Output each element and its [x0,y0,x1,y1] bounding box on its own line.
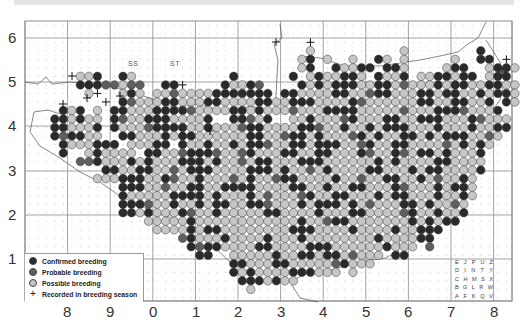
possible-breeding-dot [178,166,187,175]
possible-breeding-dot [417,200,426,209]
confirmed-breeding-dot [187,234,196,243]
possible-breeding-dot [366,225,375,234]
possible-breeding-dot [204,208,213,217]
possible-breeding-dot [255,268,264,277]
confirmed-breeding-dot [170,191,179,200]
confirmed-breeding-dot [76,81,85,90]
possible-breeding-dot [127,115,136,124]
possible-breeding-dot [298,208,307,217]
x-axis-label: 8 [490,303,498,320]
confirmed-breeding-dot [247,191,256,200]
possible-breeding-dot [306,81,315,90]
possible-breeding-dot [477,123,486,132]
possible-breeding-dot [119,81,128,90]
possible-breeding-dot [442,191,451,200]
possible-breeding-dot [434,132,443,141]
possible-breeding-dot [477,98,486,107]
possible-breeding-dot [349,157,358,166]
confirmed-breeding-dot [425,225,434,234]
possible-breeding-dot [340,132,349,141]
probable-breeding-dot [485,132,494,141]
confirmed-breeding-dot [204,123,213,132]
confirmed-breeding-dot [170,123,179,132]
confirmed-breeding-dot [298,81,307,90]
possible-breeding-dot [485,115,494,124]
possible-breeding-dot [391,98,400,107]
possible-breeding-dot [272,225,281,234]
possible-breeding-dot [204,183,213,192]
confirmed-breeding-dot [494,89,503,98]
confirmed-breeding-dot [391,123,400,132]
possible-breeding-dot [374,208,383,217]
possible-breeding-dot [417,183,426,192]
confirmed-breeding-dot [178,132,187,141]
possible-breeding-dot [323,225,332,234]
confirmed-breeding-dot [485,55,494,64]
possible-breeding-dot [477,132,486,141]
confirmed-breeding-dot [119,174,128,183]
possible-breeding-dot [511,81,520,90]
possible-breeding-dot [229,98,238,107]
probable-breeding-dot [264,191,273,200]
possible-breeding-dot [289,115,298,124]
probable-breeding-dot [229,174,238,183]
possible-breeding-dot [357,106,366,115]
possible-breeding-dot [144,98,153,107]
possible-breeding-dot [374,217,383,226]
possible-breeding-dot [383,191,392,200]
recorded-plus-icon [306,38,314,46]
confirmed-breeding-dot [349,81,358,90]
possible-breeding-dot [238,166,247,175]
probable-dot-icon [29,268,37,276]
possible-breeding-dot [229,251,238,260]
confirmed-breeding-dot [391,225,400,234]
tetrad-letter: Y [489,266,493,274]
tetrad-key-row: E J P U Z [453,258,495,266]
possible-breeding-dot [264,268,273,277]
confirmed-breeding-dot [451,106,460,115]
confirmed-breeding-dot [417,89,426,98]
possible-breeding-dot [477,157,486,166]
confirmed-breeding-dot [289,89,298,98]
possible-breeding-dot [400,157,409,166]
possible-breeding-dot [451,72,460,81]
confirmed-breeding-dot [451,132,460,141]
tetrad-letter: B [455,283,459,291]
possible-breeding-dot [85,123,94,132]
possible-breeding-dot [272,149,281,158]
confirmed-breeding-dot [468,72,477,81]
possible-breeding-dot [255,208,264,217]
possible-breeding-dot [195,225,204,234]
possible-breeding-dot [298,166,307,175]
confirmed-breeding-dot [434,72,443,81]
possible-breeding-dot [221,225,230,234]
possible-breeding-dot [187,89,196,98]
possible-breeding-dot [102,157,111,166]
possible-breeding-dot [204,106,213,115]
confirmed-breeding-dot [298,225,307,234]
possible-breeding-dot [391,234,400,243]
confirmed-breeding-dot [494,72,503,81]
confirmed-breeding-dot [323,140,332,149]
possible-breeding-dot [272,200,281,209]
confirmed-breeding-dot [442,132,451,141]
possible-breeding-dot [323,115,332,124]
possible-breeding-dot [408,149,417,158]
possible-breeding-dot [76,72,85,81]
confirmed-breeding-dot [247,140,256,149]
probable-breeding-dot [161,183,170,192]
possible-breeding-dot [340,234,349,243]
confirmed-breeding-dot [460,208,469,217]
confirmed-breeding-dot [212,157,221,166]
possible-breeding-dot [255,234,264,243]
confirmed-breeding-dot [340,72,349,81]
tetrad-letter: E [455,258,459,266]
confirmed-breeding-dot [383,243,392,252]
confirmed-breeding-dot [417,234,426,243]
possible-breeding-dot [323,55,332,64]
confirmed-breeding-dot [187,149,196,158]
confirmed-breeding-dot [391,157,400,166]
confirmed-breeding-dot [119,106,128,115]
possible-breeding-dot [212,217,221,226]
confirmed-breeding-dot [204,149,213,158]
